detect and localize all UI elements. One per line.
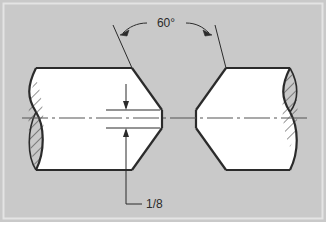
technical-drawing-canvas: 60° 1/8 (0, 0, 326, 232)
root-opening-label: 1/8 (146, 197, 163, 211)
groove-angle-label: 60° (157, 16, 175, 30)
figure-root: 60° 1/8 (0, 0, 326, 232)
